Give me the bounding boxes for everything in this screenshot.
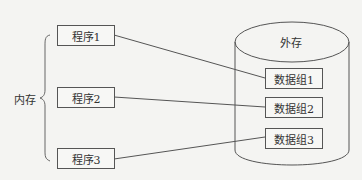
program-box-1: 程序1 — [57, 25, 115, 46]
connection-line-2 — [114, 97, 265, 107]
storage-label: 外存 — [280, 34, 302, 50]
connection-line-1 — [114, 35, 265, 78]
memory-label: 内存 — [14, 91, 36, 107]
program-label-1: 程序1 — [72, 28, 101, 44]
program-label-3: 程序3 — [72, 151, 101, 167]
program-box-2: 程序2 — [57, 87, 115, 108]
data-group-label-3: 数据组3 — [274, 131, 314, 147]
connection-line-3 — [114, 137, 265, 159]
data-group-label-1: 数据组1 — [274, 71, 314, 87]
data-group-label-2: 数据组2 — [274, 100, 314, 116]
data-group-box-1: 数据组1 — [265, 68, 323, 89]
data-group-box-2: 数据组2 — [265, 97, 323, 118]
program-box-3: 程序3 — [57, 148, 115, 169]
program-label-2: 程序2 — [72, 90, 101, 106]
memory-brace — [40, 35, 50, 161]
diagram-canvas — [0, 0, 362, 180]
data-group-box-3: 数据组3 — [265, 128, 323, 149]
